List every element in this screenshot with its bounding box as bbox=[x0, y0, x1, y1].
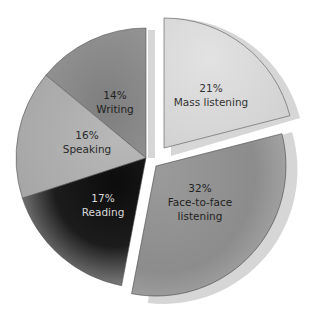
svg-text:listening: listening bbox=[178, 210, 223, 222]
svg-text:16%: 16% bbox=[75, 129, 98, 141]
svg-text:Reading: Reading bbox=[82, 206, 125, 218]
svg-text:Writing: Writing bbox=[96, 103, 134, 115]
svg-text:Speaking: Speaking bbox=[63, 143, 112, 155]
svg-text:Mass listening: Mass listening bbox=[174, 96, 249, 108]
svg-text:21%: 21% bbox=[199, 82, 222, 94]
svg-text:14%: 14% bbox=[103, 89, 126, 101]
svg-text:Face-to-face: Face-to-face bbox=[168, 196, 232, 208]
pie-chart: 14% Writing 16% Speaking 17% Reading 21%… bbox=[0, 0, 309, 318]
slice-mass-listening[interactable] bbox=[164, 18, 290, 148]
svg-text:17%: 17% bbox=[91, 192, 114, 204]
svg-text:32%: 32% bbox=[188, 182, 211, 194]
